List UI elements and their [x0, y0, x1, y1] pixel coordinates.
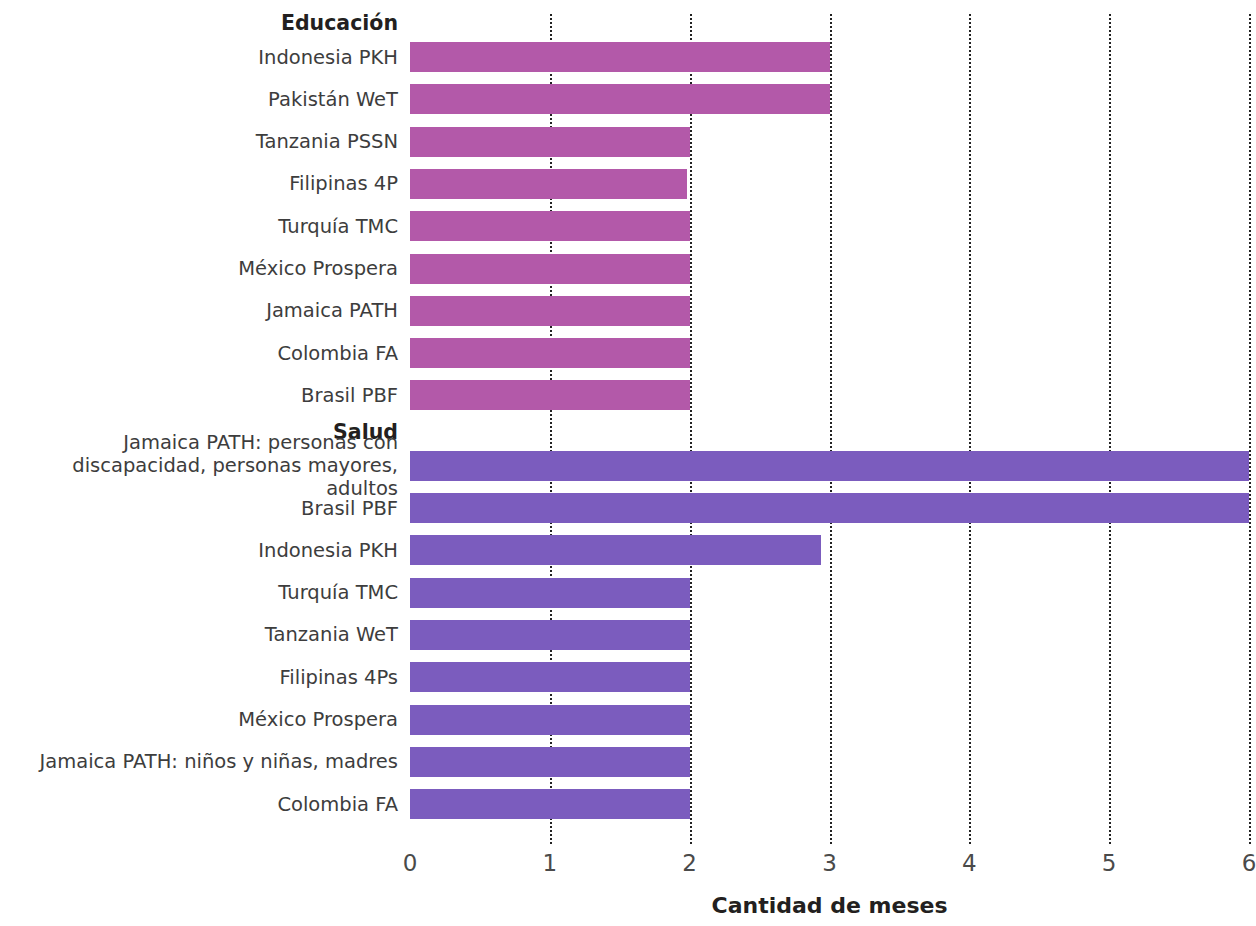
category-label: Pakistán WeT: [0, 84, 398, 114]
bar: [410, 789, 690, 819]
category-label: Turquía TMC: [0, 578, 398, 608]
category-label-text: México Prospera: [0, 708, 398, 731]
category-label: Turquía TMC: [0, 211, 398, 241]
category-label-text: Filipinas 4P: [0, 172, 398, 195]
bar: [410, 620, 690, 650]
bar: [410, 296, 690, 326]
bar: [410, 578, 690, 608]
bar: [410, 127, 690, 157]
bar: [410, 338, 690, 368]
gridline-4: [969, 14, 971, 844]
bar: [410, 380, 690, 410]
bar: [410, 84, 830, 114]
category-label-text: Jamaica PATH: personas con discapacidad,…: [0, 431, 398, 500]
bar: [410, 254, 690, 284]
category-label-text: Turquía TMC: [0, 215, 398, 238]
category-label-text: Colombia FA: [0, 793, 398, 816]
category-label-text: Turquía TMC: [0, 581, 398, 604]
category-label: Indonesia PKH: [0, 42, 398, 72]
x-tick-label-4: 4: [939, 850, 999, 876]
plot-area: [410, 14, 1249, 844]
category-label-text: Jamaica PATH: niños y niñas, madres: [0, 750, 398, 773]
category-label-text: Filipinas 4Ps: [0, 666, 398, 689]
category-label: Tanzania WeT: [0, 620, 398, 650]
x-axis-title: Cantidad de meses: [410, 893, 1249, 918]
x-tick-label-3: 3: [800, 850, 860, 876]
category-label: Jamaica PATH: [0, 296, 398, 326]
x-tick-label-6: 6: [1219, 850, 1256, 876]
category-label-text: Pakistán WeT: [0, 88, 398, 111]
category-label-text: Indonesia PKH: [0, 46, 398, 69]
category-label-text: Tanzania WeT: [0, 623, 398, 646]
category-label-text: Indonesia PKH: [0, 539, 398, 562]
category-label-text: México Prospera: [0, 257, 398, 280]
category-label: Tanzania PSSN: [0, 127, 398, 157]
bar: [410, 211, 690, 241]
category-label: Filipinas 4Ps: [0, 662, 398, 692]
category-label: Jamaica PATH: niños y niñas, madres: [0, 747, 398, 777]
gridline-6: [1249, 14, 1251, 844]
category-label: México Prospera: [0, 254, 398, 284]
category-label: Filipinas 4P: [0, 169, 398, 199]
category-label-text: Tanzania PSSN: [0, 130, 398, 153]
category-label: Colombia FA: [0, 789, 398, 819]
category-label-text: Colombia FA: [0, 342, 398, 365]
gridline-3: [830, 14, 832, 844]
gridline-2: [690, 14, 692, 844]
category-label: Indonesia PKH: [0, 535, 398, 565]
category-label-text: Brasil PBF: [0, 384, 398, 407]
category-label: Colombia FA: [0, 338, 398, 368]
x-tick-label-0: 0: [380, 850, 440, 876]
category-label-text: Jamaica PATH: [0, 299, 398, 322]
bar: [410, 535, 821, 565]
category-label: México Prospera: [0, 705, 398, 735]
bar: [410, 42, 830, 72]
bar: [410, 662, 690, 692]
category-label: Brasil PBF: [0, 493, 398, 523]
bar: [410, 747, 690, 777]
group-header-educacin: Educación: [0, 10, 398, 36]
x-tick-label-5: 5: [1079, 850, 1139, 876]
bar: [410, 493, 1249, 523]
category-label: Brasil PBF: [0, 380, 398, 410]
bar: [410, 705, 690, 735]
x-tick-label-1: 1: [520, 850, 580, 876]
bar-chart: EducaciónIndonesia PKHPakistán WeTTanzan…: [0, 0, 1256, 926]
category-label: Jamaica PATH: personas con discapacidad,…: [0, 451, 398, 481]
gridline-5: [1109, 14, 1111, 844]
bar: [410, 169, 687, 199]
category-label-text: Brasil PBF: [0, 497, 398, 520]
bar: [410, 451, 1249, 481]
x-tick-label-2: 2: [660, 850, 720, 876]
